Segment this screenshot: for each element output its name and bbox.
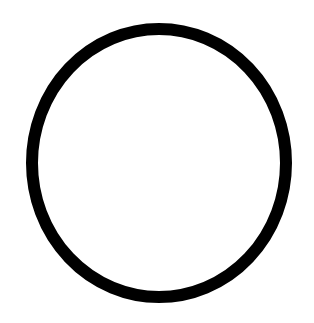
circle-outline-figure xyxy=(0,0,314,323)
drawing-canvas xyxy=(0,0,314,323)
canvas-background xyxy=(0,0,314,323)
